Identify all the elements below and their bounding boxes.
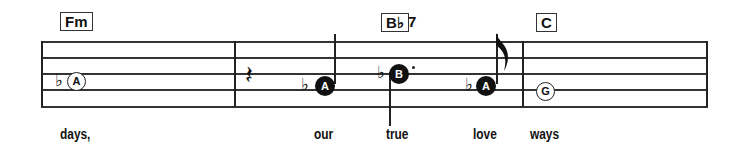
lyric-word: days, xyxy=(60,126,90,142)
flat-icon: ♭ xyxy=(55,72,63,89)
flat-icon: ♭ xyxy=(465,76,473,93)
note-stem xyxy=(334,34,336,84)
note-head-filled: A xyxy=(476,76,496,96)
augmentation-dot xyxy=(412,66,415,69)
lyric-word: true xyxy=(386,126,408,142)
flat-icon: ♭ xyxy=(377,64,385,81)
barline-end xyxy=(706,41,708,107)
barline-2 xyxy=(522,41,524,107)
chord-extension-7: 7 xyxy=(408,12,416,31)
staff-line-1 xyxy=(41,41,708,43)
staff-line-2 xyxy=(41,57,708,59)
quarter-rest-icon: 𝄽 xyxy=(245,60,253,90)
staff-line-4 xyxy=(41,89,708,91)
lyric-word: love xyxy=(473,126,497,142)
staff-line-5 xyxy=(41,106,708,108)
lyric-word: ways xyxy=(530,126,559,142)
chord-symbol-c: C xyxy=(536,13,557,32)
lyric-word: our xyxy=(314,126,333,142)
chord-symbol-bb: B♭ xyxy=(381,13,409,32)
eighth-flag-icon xyxy=(496,33,512,73)
note-head-open: A xyxy=(67,72,86,91)
note-head-filled: B xyxy=(389,64,409,84)
note-head-filled: A xyxy=(315,76,335,96)
barline-1 xyxy=(234,41,236,107)
note-head-open: G xyxy=(536,82,555,101)
flat-icon: ♭ xyxy=(301,76,309,93)
barline-start xyxy=(41,41,43,107)
staff-line-3 xyxy=(41,73,708,75)
chord-symbol-fm: Fm xyxy=(60,12,93,31)
